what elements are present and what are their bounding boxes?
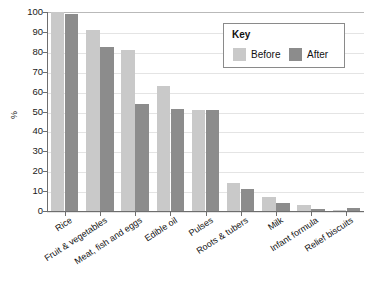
y-axis-tick-label: 10 — [19, 186, 43, 196]
bar-after — [100, 47, 114, 211]
y-axis-tick-label: 40 — [19, 127, 43, 137]
legend-label-after: After — [307, 49, 328, 60]
bar-after — [347, 208, 361, 211]
bar-group — [188, 12, 223, 211]
y-axis-tick-label: 0 — [19, 206, 43, 216]
x-axis-tick-label: Rice — [54, 216, 74, 234]
legend: Key Before After — [223, 23, 345, 68]
bar-before — [192, 110, 206, 211]
bar-group — [82, 12, 117, 211]
x-axis-tick-labels: RiceFruit & vegetablesMeat, fish and egg… — [0, 216, 371, 295]
legend-entry-after: After — [289, 48, 328, 61]
bar-before — [297, 205, 311, 211]
x-axis-tick-label: Milk — [267, 216, 286, 233]
bar-after — [135, 104, 149, 211]
bar-after — [311, 209, 325, 211]
bar-group — [117, 12, 152, 211]
y-axis-tick-label: 90 — [19, 27, 43, 37]
bar-before — [86, 30, 100, 211]
bar-after — [241, 189, 255, 211]
y-axis-tick-label: 30 — [19, 147, 43, 157]
bar-group — [153, 12, 188, 211]
bar-before — [121, 50, 135, 211]
y-axis-tick-label: 70 — [19, 67, 43, 77]
bar-after — [171, 109, 185, 211]
legend-title: Key — [232, 29, 250, 40]
bar-before — [157, 86, 171, 211]
bar-before — [227, 183, 241, 211]
bar-chart: % 0102030405060708090100 RiceFruit & veg… — [0, 0, 371, 295]
bar-after — [276, 203, 290, 211]
bar-after — [65, 14, 79, 211]
x-axis-tick-label: Edible oil — [144, 216, 180, 244]
y-axis-tick-label: 60 — [19, 87, 43, 97]
bar-before — [51, 12, 65, 211]
legend-swatch-after-icon — [289, 48, 302, 61]
y-axis-tick-label: 20 — [19, 166, 43, 176]
bar-group — [47, 12, 82, 211]
legend-entry-before: Before — [233, 48, 280, 61]
bar-before — [262, 197, 276, 211]
legend-label-before: Before — [251, 49, 280, 60]
y-axis-tick-labels: 0102030405060708090100 — [15, 12, 43, 211]
bar-before — [333, 210, 347, 211]
y-axis-tick-label: 50 — [19, 107, 43, 117]
legend-swatch-before-icon — [233, 48, 246, 61]
bar-after — [206, 110, 220, 211]
y-axis-tick-label: 80 — [19, 47, 43, 57]
y-axis-tick-label: 100 — [19, 7, 43, 17]
